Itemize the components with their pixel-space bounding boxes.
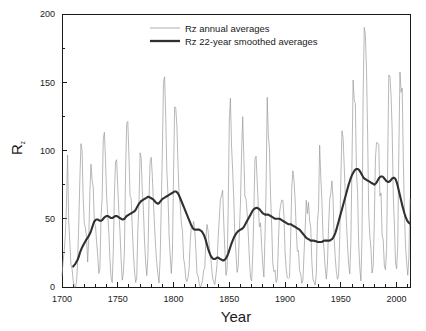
sunspot-number-chart: 1700175018001850190019502000 05010015020…	[0, 0, 426, 331]
x-tick-label: 1850	[219, 294, 239, 304]
x-tick-label: 1750	[108, 294, 128, 304]
x-tick-label: 1900	[275, 294, 295, 304]
chart-background	[0, 0, 426, 331]
x-axis-title: Year	[221, 308, 251, 325]
y-tick-label: 100	[40, 146, 55, 156]
x-tick-label: 1800	[164, 294, 184, 304]
x-tick-label: 1950	[331, 294, 351, 304]
y-axis-title-base: R	[8, 144, 25, 155]
y-tick-label: 50	[45, 214, 55, 224]
y-tick-label: 200	[40, 9, 55, 19]
y-tick-label: 150	[40, 78, 55, 88]
y-axis-title-subscript: z	[19, 141, 26, 144]
x-tick-label: 1700	[52, 294, 72, 304]
legend-label-annual: Rz annual averages	[185, 23, 270, 34]
x-tick-label: 2000	[387, 294, 407, 304]
legend-label-smoothed: Rz 22-year smoothed averages	[185, 36, 318, 47]
y-tick-label: 0	[50, 282, 55, 292]
